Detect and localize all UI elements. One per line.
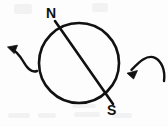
left-curved-arrow xyxy=(8,45,38,71)
south-pole-label: S xyxy=(107,103,116,117)
right-arrowhead xyxy=(127,71,137,79)
diagram-canvas: N S xyxy=(0,0,168,127)
right-curved-arrow xyxy=(127,57,164,81)
diagram-vector-layer xyxy=(0,0,168,127)
globe-circle xyxy=(39,23,119,103)
north-pole-label: N xyxy=(46,6,56,20)
